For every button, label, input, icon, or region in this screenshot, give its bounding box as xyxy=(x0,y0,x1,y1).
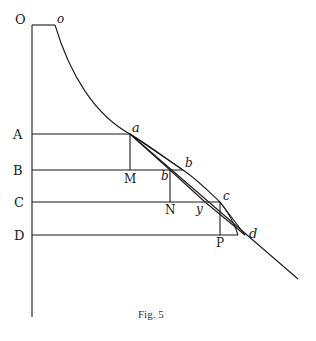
label-C: C xyxy=(14,195,24,210)
chord-y-d xyxy=(205,202,245,235)
label-O: O xyxy=(15,12,26,27)
label-c: c xyxy=(223,189,230,203)
label-P: P xyxy=(216,236,224,250)
label-a: a xyxy=(132,120,140,135)
label-B: B xyxy=(13,163,23,178)
label-b-prime: b xyxy=(185,156,193,170)
label-b: b xyxy=(161,169,169,183)
diagram-canvas: O o A B C D a M b b N y c P d Fig. 5 xyxy=(0,0,316,341)
label-A: A xyxy=(12,127,23,142)
label-o: o xyxy=(57,12,64,26)
label-y: y xyxy=(195,202,203,216)
chord-a-bprime xyxy=(130,134,183,170)
figure-caption: Fig. 5 xyxy=(138,308,164,320)
chord-c-d xyxy=(220,202,245,235)
figure-5-diagram: O o A B C D a M b b N y c P d Fig. 5 xyxy=(0,0,316,341)
tangent-line-long xyxy=(130,134,298,279)
chord-b-y xyxy=(170,170,205,202)
label-D: D xyxy=(14,228,24,243)
label-N: N xyxy=(165,203,176,217)
label-M: M xyxy=(124,172,136,186)
label-d: d xyxy=(249,226,257,241)
